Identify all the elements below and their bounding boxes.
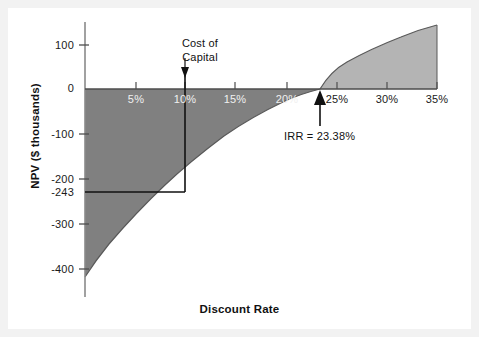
- ytick-label-neg400: -400: [24, 263, 74, 275]
- xtick-label-15: 15%: [215, 93, 255, 105]
- ytick-label-neg300: -300: [24, 218, 74, 230]
- xtick-label-20: 20%: [267, 93, 307, 105]
- y-axis-label: NPV ($ thousands): [29, 71, 41, 201]
- xtick-label-25: 25%: [317, 93, 357, 105]
- xtick-label-5: 5%: [116, 93, 156, 105]
- chart-panel: 100 0 -100 -200 -243 -300 -400 5% 10% 15…: [8, 8, 471, 329]
- xtick-label-35: 35%: [417, 93, 457, 105]
- xtick-label-10: 10%: [165, 93, 205, 105]
- cost-of-capital-line2: Capital: [164, 50, 236, 64]
- ytick-label-100: 100: [24, 39, 74, 51]
- irr-annotation: IRR = 23.38%: [284, 130, 355, 142]
- x-axis-label: Discount Rate: [0, 303, 479, 315]
- xtick-label-30: 30%: [367, 93, 407, 105]
- cost-of-capital-annotation: Cost of Capital: [164, 36, 236, 64]
- negative-npv-region: [85, 89, 320, 277]
- figure-container: 100 0 -100 -200 -243 -300 -400 5% 10% 15…: [0, 0, 479, 337]
- npv-profile-chart: [8, 8, 471, 329]
- cost-of-capital-line1: Cost of: [164, 36, 236, 50]
- positive-npv-region: [320, 25, 437, 89]
